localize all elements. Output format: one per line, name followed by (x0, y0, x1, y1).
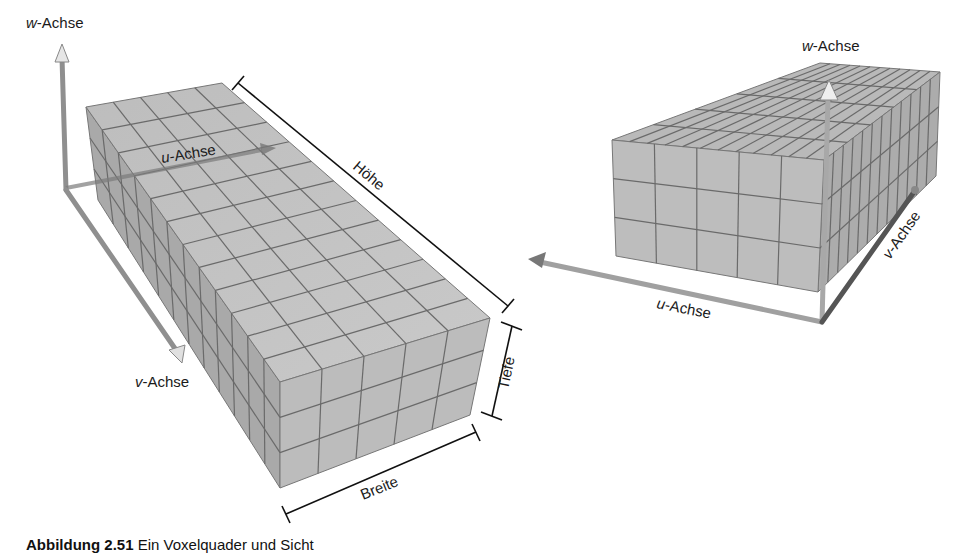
right-box-front-face (612, 140, 824, 292)
width-label: Breite (358, 472, 401, 502)
caption-text: Ein Voxelquader und Sicht (134, 536, 314, 553)
right-v-axis-end-icon (911, 186, 919, 194)
left-w-axis-label: w-Achse (26, 14, 84, 31)
right-w-axis-label: w-Achse (802, 37, 860, 54)
left-v-axis-label: v-Achse (135, 373, 189, 390)
left-w-arrowhead-icon (55, 44, 69, 62)
depth-label: Tiefe (494, 355, 517, 391)
left-w-axis (62, 58, 66, 190)
caption-label: Abbildung 2.51 (26, 536, 134, 553)
figure-caption: Abbildung 2.51 Ein Voxelquader und Sicht (26, 536, 314, 553)
right-u-arrowhead-icon (528, 252, 546, 268)
height-label: Höhe (350, 157, 388, 193)
left-voxel-box (86, 83, 490, 488)
